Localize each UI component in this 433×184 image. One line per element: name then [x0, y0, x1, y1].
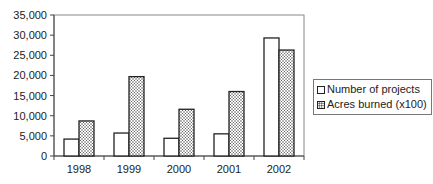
bar-number-of-projects: [64, 139, 79, 156]
y-tick-label: 20,000: [13, 69, 47, 81]
x-tick-label: 2002: [267, 163, 291, 175]
legend-label: Number of projects: [327, 82, 420, 97]
bar-acres-burned: [229, 92, 244, 156]
legend: Number of projects Acres burned (x100): [313, 79, 432, 115]
x-tick-label: 1999: [117, 163, 141, 175]
bar-acres-burned: [79, 121, 94, 156]
x-tick-label: 2001: [217, 163, 241, 175]
legend-label: Acres burned (x100): [327, 97, 427, 112]
bar-number-of-projects: [264, 38, 279, 156]
bar-acres-burned: [279, 50, 294, 156]
bar-number-of-projects: [164, 138, 179, 156]
bar-number-of-projects: [214, 134, 229, 156]
bar-acres-burned: [179, 109, 194, 156]
x-tick-label: 2000: [167, 163, 191, 175]
y-tick-label: 35,000: [13, 9, 47, 21]
bar-number-of-projects: [114, 133, 129, 156]
legend-item-projects: Number of projects: [317, 82, 427, 97]
y-tick-label: 25,000: [13, 49, 47, 61]
y-axis: 05,00010,00015,00020,00025,00030,00035,0…: [13, 9, 54, 162]
y-tick-label: 5,000: [19, 130, 47, 142]
legend-swatch-white: [317, 86, 325, 94]
x-axis: 19981999200020012002: [54, 156, 304, 175]
y-tick-label: 15,000: [13, 90, 47, 102]
y-tick-label: 0: [41, 150, 47, 162]
bar-acres-burned: [129, 77, 144, 156]
y-tick-label: 30,000: [13, 29, 47, 41]
legend-swatch-dotted: [317, 101, 325, 109]
bars: [64, 38, 294, 156]
y-tick-label: 10,000: [13, 110, 47, 122]
x-tick-label: 1998: [67, 163, 91, 175]
legend-item-acres: Acres burned (x100): [317, 97, 427, 112]
